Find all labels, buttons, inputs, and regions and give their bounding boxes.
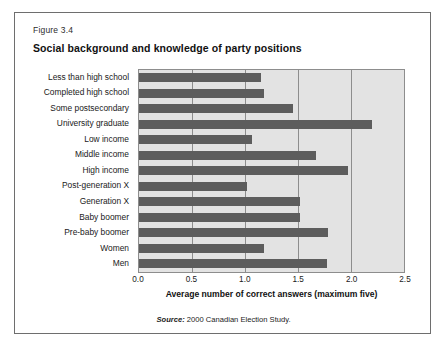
x-tick-label: 1.5 — [292, 275, 303, 284]
bar-row — [139, 117, 404, 133]
bar-row — [139, 225, 404, 241]
bar-row — [139, 86, 404, 102]
category-label: University graduate — [57, 118, 129, 128]
category-label-row: Some postsecondary — [15, 100, 133, 116]
bar-row — [139, 241, 404, 257]
category-label-row: Generation X — [15, 193, 133, 209]
category-label: Men — [113, 258, 129, 268]
category-label: Some postsecondary — [50, 103, 129, 113]
category-label-row: Baby boomer — [15, 209, 133, 225]
bar-row — [139, 148, 404, 164]
bar — [139, 120, 372, 129]
source-text: 2000 Canadian Election Study. — [185, 315, 291, 324]
bar-row — [139, 210, 404, 226]
bar — [139, 166, 348, 175]
source-label: Source: — [156, 315, 184, 324]
bar — [139, 244, 264, 253]
x-tick-label: 1.0 — [239, 275, 250, 284]
chart-container: Less than high schoolCompleted high scho… — [15, 67, 432, 335]
x-axis-title: Average number of correct answers (maxim… — [138, 289, 405, 299]
bar-row — [139, 70, 404, 86]
source-note: Source: 2000 Canadian Election Study. — [15, 315, 432, 324]
bar — [139, 228, 328, 237]
category-label-row: Less than high school — [15, 69, 133, 85]
bar-row — [139, 194, 404, 210]
figure-title: Social background and knowledge of party… — [33, 42, 302, 54]
category-label: Generation X — [80, 196, 129, 206]
category-label-row: Pre-baby boomer — [15, 224, 133, 240]
category-label-row: Women — [15, 240, 133, 256]
category-label: Low income — [84, 134, 129, 144]
category-label-row: University graduate — [15, 116, 133, 132]
category-label: Baby boomer — [79, 212, 129, 222]
category-axis-labels: Less than high schoolCompleted high scho… — [15, 69, 133, 273]
category-label: Completed high school — [44, 87, 129, 97]
bar — [139, 135, 252, 144]
category-label-row: Men — [15, 255, 133, 271]
bar-row — [139, 101, 404, 117]
x-tick-label: 0.0 — [132, 275, 143, 284]
category-label: Women — [100, 243, 129, 253]
category-label-row: Low income — [15, 131, 133, 147]
category-label: High income — [82, 165, 129, 175]
bar-row — [139, 256, 404, 272]
category-label-row: Post-generation X — [15, 178, 133, 194]
value-axis-ticks: 0.00.51.01.52.02.5 — [138, 275, 405, 289]
figure-card: Figure 3.4 Social background and knowled… — [14, 12, 431, 334]
category-label: Pre-baby boomer — [64, 227, 129, 237]
bar-series — [139, 70, 404, 272]
bar-row — [139, 179, 404, 195]
bar — [139, 259, 327, 268]
bar — [139, 73, 261, 82]
category-label: Post-generation X — [62, 180, 129, 190]
x-tick-label: 2.0 — [346, 275, 357, 284]
category-label-row: Middle income — [15, 147, 133, 163]
x-tick-label: 2.5 — [399, 275, 410, 284]
x-tick-label: 0.5 — [186, 275, 197, 284]
category-label: Middle income — [75, 149, 129, 159]
category-label: Less than high school — [48, 72, 129, 82]
bar — [139, 104, 293, 113]
bar — [139, 89, 264, 98]
bar — [139, 213, 300, 222]
bar-row — [139, 163, 404, 179]
bar — [139, 151, 316, 160]
bar-row — [139, 132, 404, 148]
plot-area — [138, 69, 405, 273]
figure-number: Figure 3.4 — [33, 25, 73, 35]
category-label-row: Completed high school — [15, 85, 133, 101]
bar — [139, 197, 300, 206]
gridline — [404, 70, 405, 272]
category-label-row: High income — [15, 162, 133, 178]
bar — [139, 182, 247, 191]
